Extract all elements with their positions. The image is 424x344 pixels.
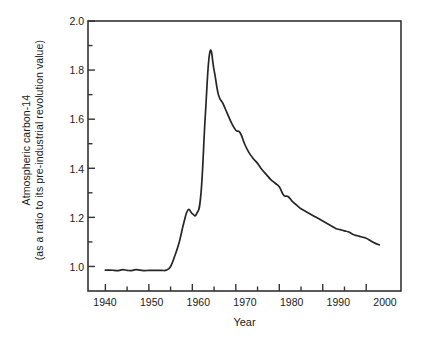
y-axis-ticks	[88, 21, 95, 266]
data-line-carbon-14	[105, 50, 379, 271]
plot-frame	[88, 21, 401, 291]
x-axis-ticks	[105, 284, 366, 291]
carbon-14-chart-figure: Atmospheric carbon-14 (as a ratio to its…	[0, 0, 424, 344]
plot-area	[0, 0, 424, 344]
